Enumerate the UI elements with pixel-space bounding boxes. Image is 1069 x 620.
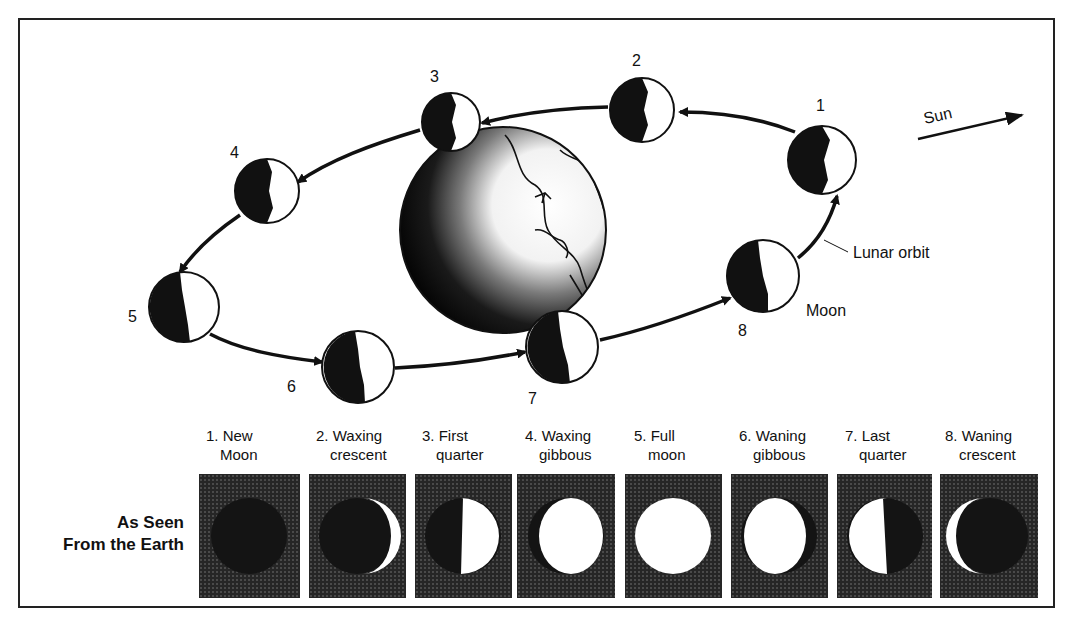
phase-panel-full-moon — [625, 474, 722, 598]
orbit-moon-2 — [610, 78, 674, 142]
orbit-moon-8 — [727, 240, 799, 312]
orbit-diagram — [0, 0, 1069, 420]
moon-new-icon — [211, 498, 287, 574]
orbit-moon-1 — [788, 126, 856, 194]
orbit-moon-3 — [422, 93, 480, 151]
orbit-number-7: 7 — [528, 390, 537, 408]
moon-first-quarter-icon — [461, 498, 499, 574]
orbit-number-5: 5 — [128, 308, 137, 326]
phase-heading-6: 6. Waning gibbous — [739, 426, 806, 464]
orbit-number-4: 4 — [230, 144, 239, 162]
phase-panel-waning-crescent — [940, 474, 1038, 598]
phase-panel-first-quarter — [415, 474, 512, 598]
orbit-moon-4 — [235, 159, 299, 223]
orbit-moon-6 — [322, 331, 394, 403]
phase-panel-waxing-gibbous — [517, 474, 615, 598]
phase-heading-1: 1. New Moon — [206, 426, 258, 464]
lunar-orbit-leader-line — [824, 240, 848, 252]
orbit-number-3: 3 — [430, 68, 439, 86]
phase-panel-waning-gibbous — [731, 474, 828, 598]
as-seen-from-earth-label: As Seen From the Earth — [60, 512, 184, 556]
phase-heading-5: 5. Full moon — [634, 426, 686, 464]
orbit-number-1: 1 — [816, 97, 825, 115]
orbit-moon-7 — [526, 311, 598, 383]
moon-full-icon — [635, 498, 711, 574]
orbit-number-6: 6 — [287, 378, 296, 396]
phase-heading-2: 2. Waxing crescent — [316, 426, 387, 464]
orbit-number-8: 8 — [738, 322, 747, 340]
moon-label: Moon — [806, 302, 846, 320]
moon-last-quarter-icon — [849, 498, 887, 574]
phase-heading-7: 7. Last quarter — [845, 426, 907, 464]
phase-heading-8: 8. Waning crescent — [945, 426, 1016, 464]
moon-waning-gibbous-icon — [744, 498, 806, 574]
phase-panel-waxing-crescent — [309, 474, 406, 598]
phase-heading-3: 3. First quarter — [422, 426, 484, 464]
phase-panel-last-quarter — [837, 474, 932, 598]
phase-heading-4: 4. Waxing gibbous — [525, 426, 592, 464]
phase-panel-new-moon — [199, 474, 300, 598]
earth — [400, 127, 606, 333]
lunar-orbit-label: Lunar orbit — [853, 244, 930, 262]
moon-waxing-gibbous-icon — [539, 498, 603, 574]
orbit-moon-5 — [149, 272, 219, 342]
orbit-number-2: 2 — [632, 52, 641, 70]
